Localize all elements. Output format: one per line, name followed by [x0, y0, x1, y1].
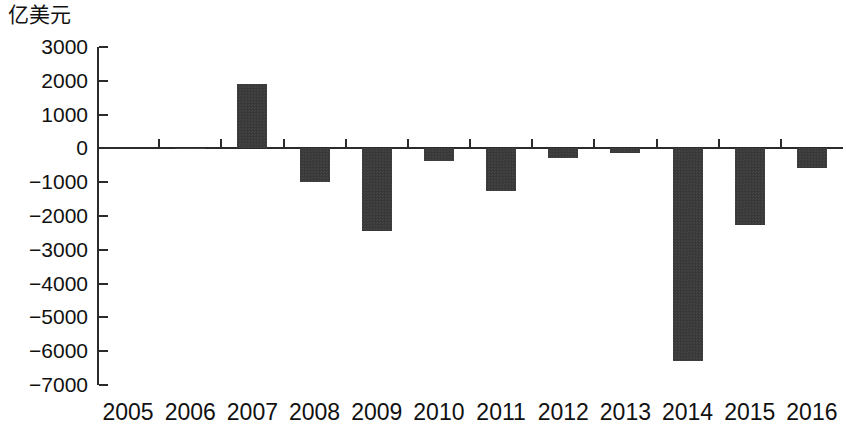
x-axis-tick-label: 2009: [346, 398, 408, 426]
y-axis-tick-mark: [99, 384, 108, 386]
x-axis-tick-label: 2011: [470, 398, 532, 426]
x-axis-tick-label: 2016: [781, 398, 843, 426]
x-axis-tick-label: 2008: [284, 398, 346, 426]
bar: [610, 148, 640, 152]
x-axis-tick-mark: [593, 139, 595, 148]
x-axis-tick-label: 2015: [719, 398, 781, 426]
x-axis-tick-mark: [220, 139, 222, 148]
bar: [735, 148, 765, 225]
y-axis-tick-mark: [99, 80, 108, 82]
bar: [300, 148, 330, 182]
x-axis-tick-mark: [718, 139, 720, 148]
bar: [175, 148, 205, 149]
y-axis-tick-mark: [99, 215, 108, 217]
x-axis-tick-label: 2007: [221, 398, 283, 426]
y-axis-tick-mark: [99, 114, 108, 116]
bar: [673, 148, 703, 361]
x-axis-tick-label: 2005: [97, 398, 159, 426]
x-axis-tick-label: 2006: [159, 398, 221, 426]
x-axis-tick-label-group: 2005200620072008200920102011201220132014…: [0, 398, 846, 438]
y-axis-tick-mark: [99, 46, 108, 48]
bar: [424, 148, 454, 161]
plot-area: [0, 0, 846, 448]
y-axis-tick-mark: [99, 249, 108, 251]
bar: [548, 148, 578, 157]
bar: [362, 148, 392, 230]
x-axis-tick-mark: [407, 139, 409, 148]
x-axis-tick-label: 2010: [408, 398, 470, 426]
y-axis-tick-mark: [99, 316, 108, 318]
y-axis-tick-mark: [99, 350, 108, 352]
x-axis-tick-mark: [345, 139, 347, 148]
x-axis-tick-label: 2013: [594, 398, 656, 426]
x-axis-tick-mark: [656, 139, 658, 148]
bar: [237, 84, 267, 149]
x-axis-tick-mark: [531, 139, 533, 148]
x-axis-tick-mark: [780, 139, 782, 148]
x-axis-tick-label: 2014: [657, 398, 719, 426]
bar-chart: 亿美元 3000200010000−1000−2000−3000−4000−50…: [0, 0, 846, 448]
y-axis-tick-mark: [99, 283, 108, 285]
y-axis-tick-mark: [99, 181, 108, 183]
x-axis-tick-mark: [469, 139, 471, 148]
x-axis-tick-label: 2012: [532, 398, 594, 426]
x-axis-tick-mark: [283, 139, 285, 148]
bar: [797, 148, 827, 167]
bar: [486, 148, 516, 190]
x-axis-tick-mark: [158, 139, 160, 148]
